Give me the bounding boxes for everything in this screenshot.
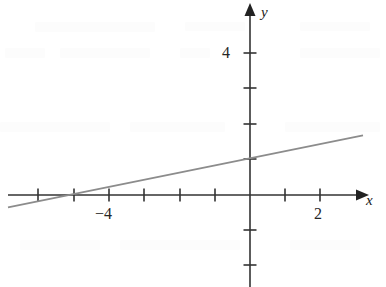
x-axis-label: x <box>366 192 373 209</box>
y-tick-label-4: 4 <box>222 44 230 62</box>
coordinate-plane <box>0 0 386 287</box>
y-axis-arrowhead <box>245 3 256 16</box>
graph-canvas: x y 4 −4 2 <box>0 0 386 287</box>
y-axis-label: y <box>261 4 268 21</box>
x-tick-label-neg4: −4 <box>95 205 112 223</box>
plotted-line <box>8 135 363 207</box>
x-tick-label-2: 2 <box>314 205 322 223</box>
